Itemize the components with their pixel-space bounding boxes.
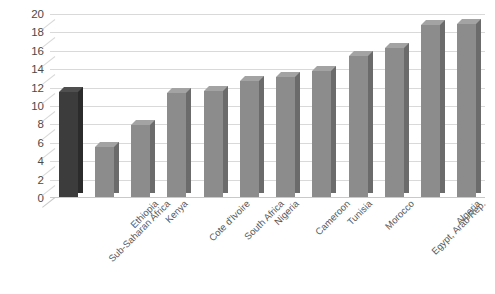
y-axis-tick-label: 18	[0, 27, 44, 38]
bar-front-face	[457, 24, 476, 198]
y-axis: 20181614121086420	[0, 0, 50, 210]
bar-side-face	[404, 43, 409, 193]
clipped-caption	[0, 288, 495, 294]
bar[interactable]	[131, 125, 150, 198]
bar-front-face	[276, 77, 295, 198]
bar[interactable]	[457, 24, 476, 198]
bar-side-face	[259, 76, 264, 193]
y-axis-tick-label: 8	[0, 119, 44, 130]
bar-front-face	[240, 81, 259, 198]
bar-chart: 20181614121086420 Sub-Saharan AfricaEthi…	[0, 0, 495, 294]
plot-area	[50, 14, 485, 198]
bar[interactable]	[204, 91, 223, 198]
bar-front-face	[312, 71, 331, 198]
bar-front-face	[167, 93, 186, 198]
bar[interactable]	[385, 48, 404, 198]
bar-front-face	[421, 25, 440, 198]
bar-front-face	[385, 48, 404, 198]
x-axis-labels: Sub-Saharan AfricaEthiopiaKenyaCote d'Iv…	[50, 198, 485, 294]
bar-side-face	[295, 72, 300, 193]
bar[interactable]	[95, 147, 114, 198]
bar-side-face	[368, 51, 373, 193]
bar-front-face	[95, 147, 114, 198]
bar-front-face	[59, 92, 78, 198]
bar[interactable]	[421, 25, 440, 198]
bar[interactable]	[240, 81, 259, 198]
x-axis-tick-label: Morocco	[383, 198, 417, 232]
bar-side-face	[331, 66, 336, 193]
bar[interactable]	[59, 92, 78, 198]
bar-side-face	[150, 120, 155, 193]
y-axis-tick-label: 14	[0, 64, 44, 75]
x-axis-tick-label: Sub-Saharan Africa	[106, 198, 172, 264]
bar-side-face	[223, 86, 228, 193]
bar-side-face	[78, 87, 83, 193]
bar[interactable]	[167, 93, 186, 198]
y-axis-tick-label: 0	[0, 193, 44, 204]
y-axis-tick-label: 20	[0, 9, 44, 20]
bar-series	[50, 14, 485, 198]
bar-side-face	[186, 88, 191, 193]
bar-side-face	[114, 142, 119, 193]
bar-front-face	[349, 56, 368, 198]
bar-side-face	[476, 19, 481, 193]
y-axis-tick-label: 12	[0, 82, 44, 93]
y-axis-tick-label: 16	[0, 45, 44, 56]
bar-front-face	[131, 125, 150, 198]
y-axis-tick-label: 10	[0, 101, 44, 112]
bar-front-face	[204, 91, 223, 198]
bar[interactable]	[349, 56, 368, 198]
bar[interactable]	[312, 71, 331, 198]
y-axis-tick-label: 6	[0, 137, 44, 148]
bar[interactable]	[276, 77, 295, 198]
y-axis-tick-label: 4	[0, 156, 44, 167]
y-axis-tick-label: 2	[0, 174, 44, 185]
bar-side-face	[440, 20, 445, 193]
